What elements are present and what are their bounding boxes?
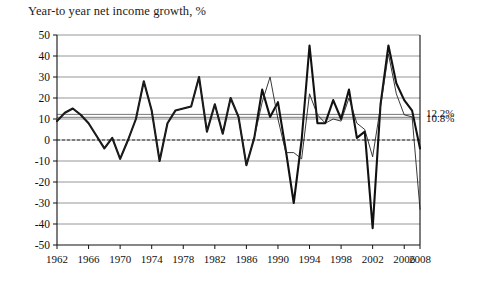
y-tick-label-50: 50 [39,29,51,41]
x-tick-label-1974: 1974 [141,253,164,265]
y-axis-ticks: 50403020100-10-20-30-40-50 [35,29,57,251]
x-axis-ticks: 1962196619701974197819821986199019941998… [46,245,432,265]
y-tick-label-0: 0 [44,134,50,146]
x-tick-label-1990: 1990 [267,253,290,265]
chart-container: Year-to year net income growth, % 196219… [0,0,488,281]
x-tick-label-1978: 1978 [172,253,195,265]
x-tick-label-1970: 1970 [109,253,132,265]
x-tick-label-1994: 1994 [299,253,322,265]
y-tick-label-40: 40 [39,50,51,62]
y-tick-label-30: 30 [39,71,51,83]
x-tick-label-1966: 1966 [78,253,101,265]
y-tick-label-20: 20 [39,92,51,104]
line-chart-plot: 1962196619701974197819821986199019941998… [0,0,488,281]
y-tick-label--30: -30 [35,197,51,209]
y-tick-label--50: -50 [35,239,51,251]
x-tick-label-1998: 1998 [330,253,353,265]
ref-line-lower-label: 10.8% [426,112,454,124]
y-tick-label--10: -10 [35,155,51,167]
x-tick-label-2002: 2002 [362,253,384,265]
x-tick-label-1982: 1982 [204,253,226,265]
y-tick-label--40: -40 [35,218,51,230]
y-tick-label-10: 10 [39,113,51,125]
x-tick-label-2008: 2008 [409,253,432,265]
x-tick-label-1962: 1962 [46,253,68,265]
y-tick-label--20: -20 [35,176,51,188]
reference-line-labels: 12.2%10.8% [426,107,454,124]
x-tick-label-1986: 1986 [235,253,258,265]
